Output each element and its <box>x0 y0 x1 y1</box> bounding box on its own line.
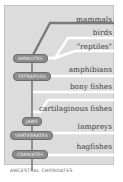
node-tetrapods: TETRAPODS <box>13 72 51 81</box>
node-amniotes: AMNIOTES <box>13 54 48 63</box>
node-vertebrates: VERTEBRATES <box>10 131 53 140</box>
root-label: ANCESTRAL CHORDATES <box>10 168 73 173</box>
taxon-birds: birds <box>93 28 112 37</box>
taxon-reptiles: "reptiles" <box>77 42 112 51</box>
taxon-amphibians: amphibians <box>69 65 112 74</box>
taxon-hagfishes: hagfishes <box>76 142 112 151</box>
node-jaws: JAWS <box>22 117 42 126</box>
node-craniates: CRANIATES <box>12 150 48 159</box>
taxon-bony-fishes: bony fishes <box>70 82 112 91</box>
taxon-cartilaginous-fishes: cartilaginous fishes <box>39 104 112 113</box>
taxon-lampreys: lampreys <box>78 122 112 131</box>
taxon-mammals: mammals <box>76 15 112 24</box>
branch-reptiles <box>55 51 114 58</box>
